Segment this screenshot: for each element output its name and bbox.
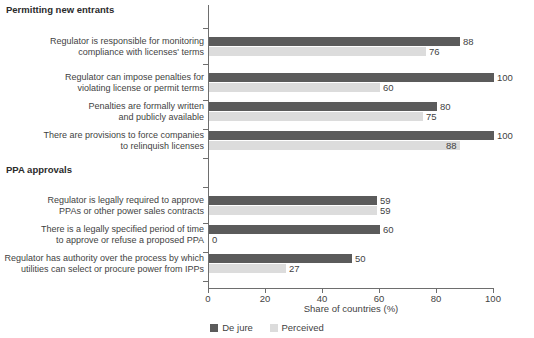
- bar-value-perceived-4: 59: [380, 205, 391, 216]
- y-axis-line: [208, 5, 209, 288]
- bar-de-jure-0: [209, 37, 460, 46]
- category-label-line: to relinquish licenses: [4, 141, 204, 152]
- bar-value-de-jure-6: 50: [355, 253, 366, 264]
- category-label-line: PPAs or other power sales contracts: [4, 206, 204, 217]
- bar-value-perceived-0: 76: [429, 46, 440, 57]
- category-label-line: There are provisions to force companies: [4, 130, 204, 141]
- bar-value-perceived-3: 88: [446, 140, 457, 151]
- category-label-line: Regulator has authority over the process…: [4, 253, 204, 264]
- bar-de-jure-3: [209, 131, 494, 140]
- legend-item-de-jure: De jure: [210, 322, 253, 333]
- category-label-3: There are provisions to force companies …: [4, 130, 204, 152]
- bar-perceived-4: [209, 206, 377, 215]
- bar-chart: Permitting new entrants Regulator is res…: [0, 0, 534, 338]
- category-label-4: Regulator is legally required to approve…: [4, 195, 204, 217]
- bar-value-perceived-2: 75: [426, 111, 437, 122]
- bar-perceived-0: [209, 47, 426, 56]
- legend-swatch-de-jure-icon: [210, 324, 218, 332]
- legend-swatch-perceived-icon: [270, 324, 278, 332]
- bar-value-de-jure-1: 100: [497, 72, 513, 83]
- bar-value-de-jure-5: 60: [383, 224, 394, 235]
- category-label-line: Regulator is responsible for monitoring: [4, 36, 204, 47]
- category-label-2: Penalties are formally written and publi…: [4, 101, 204, 123]
- category-label-line: violating license or permit terms: [4, 83, 204, 94]
- category-label-line: There is a legally specified period of t…: [4, 224, 204, 235]
- bar-perceived-1: [209, 83, 380, 92]
- bar-value-de-jure-0: 88: [463, 36, 474, 47]
- bar-de-jure-5: [209, 225, 380, 234]
- category-label-line: Regulator can impose penalties for: [4, 72, 204, 83]
- category-label-line: utilities can select or procure power fr…: [4, 264, 204, 275]
- category-label-1: Regulator can impose penalties for viola…: [4, 72, 204, 94]
- legend-label-de-jure: De jure: [222, 322, 253, 333]
- category-label-line: Regulator is legally required to approve: [4, 195, 204, 206]
- bar-value-de-jure-3: 100: [497, 130, 513, 141]
- bar-value-perceived-6: 27: [289, 263, 300, 274]
- category-label-0: Regulator is responsible for monitoring …: [4, 36, 204, 58]
- legend-label-perceived: Perceived: [282, 322, 324, 333]
- bar-perceived-2: [209, 112, 423, 121]
- category-label-line: compliance with licenses' terms: [4, 47, 204, 58]
- category-label-line: Penalties are formally written: [4, 101, 204, 112]
- bar-de-jure-1: [209, 73, 494, 82]
- bar-de-jure-2: [209, 102, 437, 111]
- category-label-6: Regulator has authority over the process…: [4, 253, 204, 275]
- category-label-line: and publicly available: [4, 112, 204, 123]
- legend-item-perceived: Perceived: [270, 322, 324, 333]
- category-label-5: There is a legally specified period of t…: [4, 224, 204, 246]
- section-header-permitting-new-entrants: Permitting new entrants: [6, 4, 114, 15]
- bar-de-jure-4: [209, 196, 377, 205]
- bar-de-jure-6: [209, 254, 352, 263]
- bar-value-perceived-5: 0: [212, 234, 217, 245]
- x-axis-line: [208, 288, 494, 289]
- chart-legend: De jure Perceived: [0, 322, 534, 333]
- bar-value-de-jure-2: 80: [440, 101, 451, 112]
- bar-value-perceived-1: 60: [383, 82, 394, 93]
- x-axis-title: Share of countries (%): [208, 303, 494, 314]
- category-label-line: to approve or refuse a proposed PPA: [4, 235, 204, 246]
- bar-perceived-3: [209, 141, 460, 150]
- bar-perceived-6: [209, 264, 286, 273]
- section-header-ppa-approvals: PPA approvals: [6, 164, 72, 175]
